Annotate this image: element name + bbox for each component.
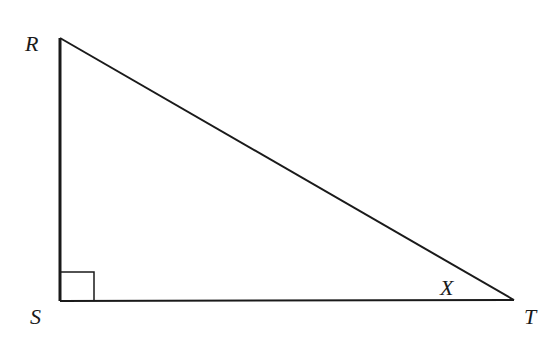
vertex-label-r: R (24, 31, 39, 56)
angle-label-x: X (439, 275, 455, 300)
side-rt (60, 38, 514, 300)
vertex-label-s: S (30, 304, 41, 329)
right-angle-marker (60, 272, 94, 301)
triangle-diagram: R S T X (0, 0, 555, 346)
side-st (60, 300, 514, 301)
vertex-label-t: T (524, 304, 538, 329)
